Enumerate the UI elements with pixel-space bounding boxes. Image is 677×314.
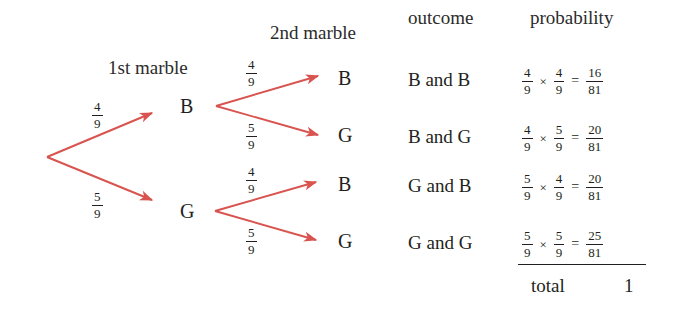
fraction-numerator: 20 bbox=[586, 123, 603, 139]
leaf-node-2: G bbox=[338, 125, 352, 145]
probability-first-factor: 4 9 bbox=[522, 123, 533, 153]
probability-second-factor: 5 9 bbox=[554, 123, 565, 153]
equals-sign: = bbox=[564, 237, 586, 251]
leaf-node-1: B bbox=[338, 68, 351, 88]
equals-sign: = bbox=[564, 180, 586, 194]
fraction-denominator: 9 bbox=[522, 245, 533, 260]
branch-label-b-first: 4 9 bbox=[92, 100, 103, 130]
probability-tree-diagram: 1st marble 2nd marble outcome probabilit… bbox=[0, 0, 677, 314]
branch-g-to-g bbox=[215, 211, 316, 240]
fraction-numerator: 4 bbox=[246, 58, 257, 74]
fraction-denominator: 9 bbox=[246, 74, 257, 89]
branch-label-gg: 5 9 bbox=[246, 226, 257, 256]
probability-result: 20 81 bbox=[586, 123, 603, 153]
header-outcome: outcome bbox=[408, 8, 473, 27]
fraction-numerator: 5 bbox=[554, 229, 565, 245]
probability-result: 20 81 bbox=[586, 172, 603, 202]
node-first-b: B bbox=[180, 96, 193, 116]
multiplication-sign: × bbox=[533, 238, 554, 251]
fraction-denominator: 81 bbox=[586, 82, 603, 97]
fraction-numerator: 4 bbox=[554, 172, 565, 188]
multiplication-sign: × bbox=[533, 132, 554, 145]
fraction-numerator: 5 bbox=[522, 229, 533, 245]
probability-second-factor: 5 9 bbox=[554, 229, 565, 259]
leaf-node-4: G bbox=[338, 231, 352, 251]
probability-first-factor: 4 9 bbox=[522, 66, 533, 96]
leaf-node-3: B bbox=[338, 174, 351, 194]
fraction-numerator: 20 bbox=[586, 172, 603, 188]
multiplication-sign: × bbox=[533, 181, 554, 194]
total-value: 1 bbox=[624, 276, 634, 295]
probability-first-factor: 5 9 bbox=[522, 172, 533, 202]
fraction-denominator: 9 bbox=[522, 82, 533, 97]
fraction-numerator: 16 bbox=[586, 66, 603, 82]
fraction-denominator: 9 bbox=[554, 245, 565, 260]
outcome-row-2: B and G bbox=[408, 127, 471, 146]
fraction-numerator: 5 bbox=[522, 172, 533, 188]
fraction-denominator: 9 bbox=[554, 188, 565, 203]
branch-label-gb: 4 9 bbox=[246, 165, 257, 195]
probability-row-2: 4 9 × 5 9 = 20 81 bbox=[522, 123, 603, 153]
fraction-denominator: 9 bbox=[92, 206, 103, 221]
probability-row-1: 4 9 × 4 9 = 16 81 bbox=[522, 66, 603, 96]
fraction-denominator: 9 bbox=[522, 188, 533, 203]
header-second-marble: 2nd marble bbox=[270, 23, 356, 42]
probability-second-factor: 4 9 bbox=[554, 66, 565, 96]
branch-label-bb: 4 9 bbox=[246, 58, 257, 88]
outcome-row-4: G and G bbox=[408, 233, 472, 252]
fraction-numerator: 5 bbox=[554, 123, 565, 139]
fraction-denominator: 81 bbox=[586, 245, 603, 260]
fraction-numerator: 4 bbox=[522, 66, 533, 82]
probability-result: 16 81 bbox=[586, 66, 603, 96]
branch-label-g-first: 5 9 bbox=[92, 190, 103, 220]
branch-b-to-g bbox=[216, 106, 318, 135]
fraction-denominator: 9 bbox=[246, 181, 257, 196]
probability-row-3: 5 9 × 4 9 = 20 81 bbox=[522, 172, 603, 202]
header-first-marble: 1st marble bbox=[108, 58, 188, 77]
total-divider bbox=[518, 264, 646, 265]
fraction-denominator: 9 bbox=[554, 139, 565, 154]
fraction-denominator: 9 bbox=[92, 116, 103, 131]
probability-result: 25 81 bbox=[586, 229, 603, 259]
total-label: total bbox=[531, 276, 565, 295]
fraction-numerator: 5 bbox=[246, 226, 257, 242]
equals-sign: = bbox=[564, 131, 586, 145]
fraction-numerator: 5 bbox=[246, 121, 257, 137]
branch-label-bg: 5 9 bbox=[246, 121, 257, 151]
fraction-denominator: 9 bbox=[522, 139, 533, 154]
node-first-g: G bbox=[180, 201, 194, 221]
fraction-numerator: 4 bbox=[92, 100, 103, 116]
equals-sign: = bbox=[564, 74, 586, 88]
fraction-numerator: 5 bbox=[92, 190, 103, 206]
fraction-numerator: 4 bbox=[554, 66, 565, 82]
fraction-numerator: 4 bbox=[522, 123, 533, 139]
fraction-denominator: 81 bbox=[586, 139, 603, 154]
fraction-denominator: 81 bbox=[586, 188, 603, 203]
branch-b-to-b bbox=[216, 76, 318, 106]
multiplication-sign: × bbox=[533, 75, 554, 88]
fraction-numerator: 4 bbox=[246, 165, 257, 181]
header-probability: probability bbox=[530, 8, 613, 27]
fraction-denominator: 9 bbox=[246, 242, 257, 257]
branch-g-to-b bbox=[215, 182, 316, 211]
tree-branches bbox=[0, 0, 677, 314]
fraction-numerator: 25 bbox=[586, 229, 603, 245]
outcome-row-3: G and B bbox=[408, 176, 471, 195]
probability-first-factor: 5 9 bbox=[522, 229, 533, 259]
outcome-row-1: B and B bbox=[408, 70, 470, 89]
probability-row-4: 5 9 × 5 9 = 25 81 bbox=[522, 229, 603, 259]
probability-second-factor: 4 9 bbox=[554, 172, 565, 202]
fraction-denominator: 9 bbox=[246, 137, 257, 152]
fraction-denominator: 9 bbox=[554, 82, 565, 97]
